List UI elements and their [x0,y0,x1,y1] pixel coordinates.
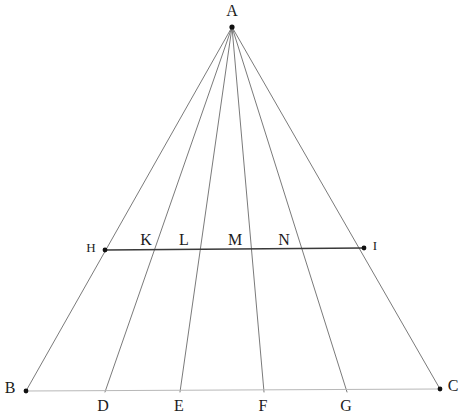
vertex-label-g: G [340,398,352,414]
vertex-label-c: C [448,378,459,394]
vertex-dot-a [229,24,234,29]
vertex-label-m: M [228,232,242,248]
cevian-AE [180,27,232,392]
vertex-label-d: D [97,398,109,414]
vertex-dot-i [362,246,367,251]
transversal-HI [105,248,364,250]
side-AC [232,27,440,389]
vertex-label-n: N [278,232,290,248]
vertex-dot-h [103,248,108,253]
vertex-label-h: H [86,241,95,254]
vertex-dot-c [438,387,443,392]
vertex-dot-layer [24,24,443,393]
vertex-label-a: A [226,3,238,19]
vertex-label-e: E [174,398,184,414]
baseline-BC [26,389,440,391]
vertex-label-i: I [373,239,377,252]
vertex-label-f: F [259,398,268,414]
vertex-label-b: B [5,380,16,396]
vertex-label-k: K [140,232,152,248]
segment-layer [26,27,440,392]
side-AB [26,27,232,391]
vertex-label-l: L [179,232,189,248]
geometry-canvas [0,0,465,419]
cevian-AF [232,27,264,392]
cevian-AD [105,27,232,392]
cevian-AG [232,27,347,392]
geometry-figure: ABCDEFGHIKLMN [0,0,465,419]
vertex-dot-b [24,389,29,394]
